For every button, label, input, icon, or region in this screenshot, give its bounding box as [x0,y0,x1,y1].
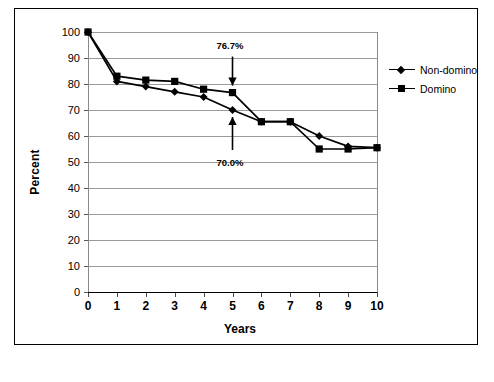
chart-legend: Non-dominoDomino [389,60,473,98]
y-axis-title: Percent [28,127,42,217]
x-axis-tick-label: 9 [336,300,360,312]
y-axis-tick-label: 20 [46,235,80,246]
plot-right-border [377,32,378,292]
gridline [88,266,377,267]
chart-figure: 0102030405060708090100 012345678910 Perc… [0,0,494,382]
y-axis-tick-label: 100 [46,27,80,38]
gridline [88,136,377,137]
gridline [88,32,377,33]
y-axis-tick-label: 0 [46,287,80,298]
y-axis-tick-label: 30 [46,209,80,220]
y-axis-tick-label: 50 [46,157,80,168]
x-axis-tick-label: 2 [134,300,158,312]
gridline [88,188,377,189]
plot-left-border [88,32,89,292]
legend-item-domino[interactable]: Domino [389,79,473,98]
legend-item-label: Non-domino [415,64,477,76]
legend-key-diamond-icon [397,65,405,73]
gridline [88,84,377,85]
gridline [88,214,377,215]
x-axis-tick-label: 6 [249,300,273,312]
gridline [88,110,377,111]
legend-key-square-icon [398,85,405,92]
y-axis-tick-label: 10 [46,261,80,272]
annotation-label-lower: 70.0% [217,158,244,168]
y-axis-tick-label: 70 [46,105,80,116]
legend-item-non-domino[interactable]: Non-domino [389,60,473,79]
x-axis-tick-label: 4 [192,300,216,312]
legend-marker-square-icon [389,83,415,95]
legend-item-label: Domino [415,83,456,95]
annotation-label-upper: 76.7% [217,41,244,51]
x-axis-line [88,292,377,293]
gridline [88,240,377,241]
x-axis-tick-label: 5 [221,300,245,312]
x-axis-tick-label: 10 [365,300,389,312]
x-axis-tick-mark [377,292,378,297]
x-axis-tick-label: 3 [163,300,187,312]
x-axis-tick-label: 8 [307,300,331,312]
y-axis-tick-label: 60 [46,131,80,142]
x-axis-title: Years [150,322,330,336]
x-axis-tick-label: 1 [105,300,129,312]
x-axis-tick-label: 0 [76,300,100,312]
x-axis-tick-label: 7 [278,300,302,312]
legend-marker-diamond-icon [389,64,415,76]
y-axis-tick-label: 80 [46,79,80,90]
y-axis-tick-label: 90 [46,53,80,64]
y-axis-tick-label: 40 [46,183,80,194]
gridline [88,58,377,59]
